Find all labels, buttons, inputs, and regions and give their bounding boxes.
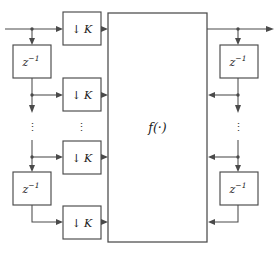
down-arrow-icon-4: ↓ — [72, 217, 81, 230]
diagram-canvas: f(·) ↓K ↓K ↓K ↓K z−1 z−1 — [0, 0, 278, 255]
function-block-group[interactable]: f(·) — [108, 13, 207, 242]
arrowhead-center-in-1 — [101, 26, 108, 32]
delay-block-left-bottom[interactable]: z−1 — [13, 172, 51, 205]
arrowhead-center-in-2 — [101, 92, 108, 98]
arrowhead-into-downsample-3 — [56, 154, 63, 160]
arrowhead-into-delay-left-top — [29, 38, 35, 45]
arrowhead-right-column-continue-top — [235, 105, 241, 113]
delay-block-left-top[interactable]: z−1 — [13, 45, 51, 78]
downsample-block-1-rect[interactable] — [63, 12, 101, 45]
function-block-label: f(·) — [147, 120, 166, 135]
down-arrow-icon-2: ↓ — [72, 89, 81, 102]
arrowhead-into-delay-right-top — [235, 38, 241, 45]
arrowhead-into-delay-left-bottom — [29, 165, 35, 172]
downsample-block-4-rect[interactable] — [63, 206, 101, 239]
arrowhead-center-feedback-3 — [208, 154, 215, 160]
wire-delay-right-bottom-feedback — [211, 205, 238, 222]
ellipsis-left-downsample-column: ⋮ — [76, 121, 87, 134]
downsample-block-3[interactable]: ↓K — [63, 141, 101, 174]
block-diagram-figure: f(·) ↓K ↓K ↓K ↓K z−1 z−1 — [0, 0, 278, 255]
arrowhead-center-feedback-4 — [208, 219, 215, 225]
downsample-block-4[interactable]: ↓K — [63, 206, 101, 239]
arrowhead-into-downsample-4 — [56, 219, 63, 225]
downsample-block-2[interactable]: ↓K — [63, 78, 101, 111]
ellipsis-right-delay-column: ⋮ — [233, 121, 244, 134]
arrowhead-output-row1 — [266, 26, 274, 32]
arrowhead-into-delay-right-bottom — [235, 165, 241, 172]
ellipsis-left-delay-column: ⋮ — [27, 121, 38, 134]
arrowhead-center-feedback-2 — [208, 92, 215, 98]
downsample-block-1[interactable]: ↓K — [63, 12, 101, 45]
delay-block-right-bottom[interactable]: z−1 — [220, 172, 258, 205]
arrowhead-into-downsample-2 — [56, 92, 63, 98]
down-arrow-icon-3: ↓ — [72, 152, 81, 165]
arrowhead-left-column-continue-top — [29, 105, 35, 113]
arrowhead-center-in-4 — [101, 219, 108, 225]
delay-block-right-top[interactable]: z−1 — [220, 45, 258, 78]
downsample-block-2-rect[interactable] — [63, 78, 101, 111]
down-arrow-icon-1: ↓ — [72, 23, 81, 36]
arrowhead-into-downsample-1 — [56, 26, 63, 32]
downsample-block-3-rect[interactable] — [63, 141, 101, 174]
arrowhead-center-in-3 — [101, 154, 108, 160]
